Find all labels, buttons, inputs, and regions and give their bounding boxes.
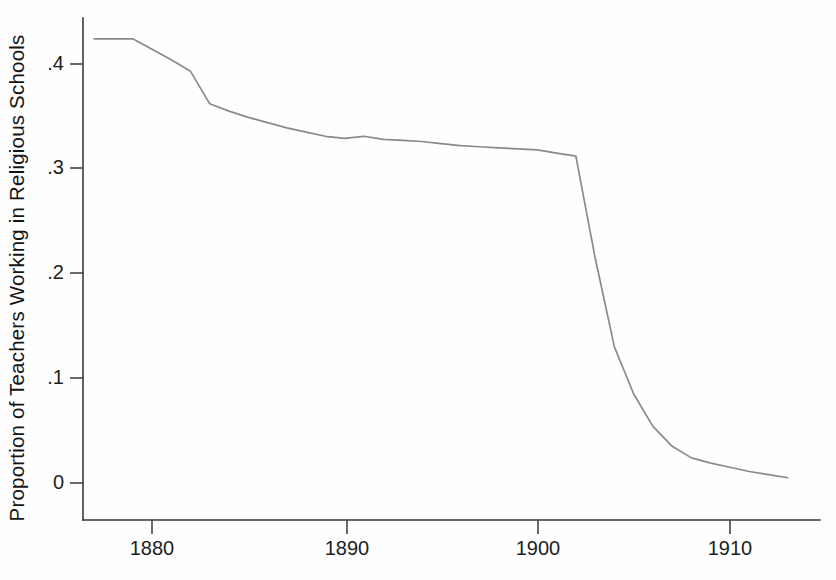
chart-canvas: Proportion of Teachers Working in Religi… xyxy=(0,0,836,580)
x-axis-ticks: 1880 1890 1900 1910 xyxy=(130,520,753,559)
y-tick-label-1: .1 xyxy=(47,366,64,388)
y-axis-title: Proportion of Teachers Working in Religi… xyxy=(5,35,28,522)
x-tick-label-1900: 1900 xyxy=(516,537,561,559)
x-tick-label-1880: 1880 xyxy=(130,537,175,559)
y-tick-label-0: 0 xyxy=(53,471,64,493)
y-tick-label-3: .3 xyxy=(47,156,64,178)
x-tick-label-1910: 1910 xyxy=(708,537,753,559)
y-axis-ticks: 0 .1 .2 .3 .4 xyxy=(47,52,83,493)
data-series-line xyxy=(94,39,788,478)
chart-figure: Proportion of Teachers Working in Religi… xyxy=(0,0,836,580)
x-tick-label-1890: 1890 xyxy=(325,537,370,559)
y-tick-label-4: .4 xyxy=(47,52,64,74)
y-tick-label-2: .2 xyxy=(47,261,64,283)
